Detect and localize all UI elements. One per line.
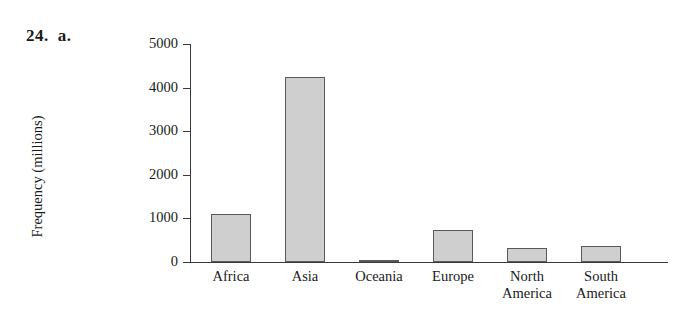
y-tick-label-wrap: 3000 [126,123,178,137]
y-tick-label-wrap: 2000 [126,167,178,181]
y-tick-label-wrap: 4000 [126,80,178,94]
y-tick-label: 4000 [149,80,178,94]
x-category-label: Africa [194,268,268,285]
x-category-label: NorthAmerica [490,268,564,302]
figure: 24.a. Frequency (millions) 0100020003000… [0,0,684,312]
y-tick-label: 0 [171,254,178,268]
y-tick-label: 5000 [149,36,178,50]
y-tick-label-wrap: 1000 [126,210,178,224]
x-category-label: Oceania [342,268,416,285]
bar-chart: Frequency (millions) 0100020003000400050… [0,0,684,312]
y-tick-label: 1000 [149,210,178,224]
bar-europe [433,230,473,262]
x-category-label: SouthAmerica [564,268,638,302]
y-tick-label: 2000 [149,167,178,181]
x-category-label: Europe [416,268,490,285]
bar-north-america [507,248,547,262]
bar-south-america [581,246,621,262]
x-axis-line [190,262,668,263]
y-tick-label-wrap: 0 [126,254,178,268]
y-axis-line [190,44,191,263]
y-axis-label: Frequency (millions) [29,77,46,277]
y-tick-label: 3000 [149,123,178,137]
bar-oceania [359,260,399,263]
bar-africa [211,214,251,262]
x-category-label: Asia [268,268,342,285]
bar-asia [285,77,325,262]
y-tick-label-wrap: 5000 [126,36,178,50]
